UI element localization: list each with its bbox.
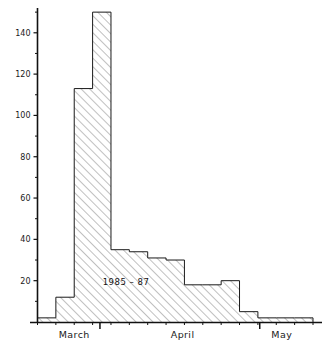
y-axis-tick-label: 120 [15,70,30,79]
y-axis-tick-label: 20 [20,277,30,286]
y-axis-tick-label: 80 [20,153,30,162]
chart-canvas: 20406080100120140 MarchAprilMay 1985 – 8… [0,0,331,348]
y-axis-tick-label: 60 [20,194,30,203]
x-axis-category-label: May [271,329,292,340]
series-annotation-label: 1985 – 87 [103,277,150,287]
y-axis-tick-label: 40 [20,235,30,244]
y-axis-tick-label: 100 [15,111,30,120]
histogram-chart: 20406080100120140 MarchAprilMay 1985 – 8… [0,0,331,348]
x-axis-category-label: March [59,329,90,340]
y-axis-tick-label: 140 [15,29,30,38]
x-axis-category-label: April [171,329,195,340]
